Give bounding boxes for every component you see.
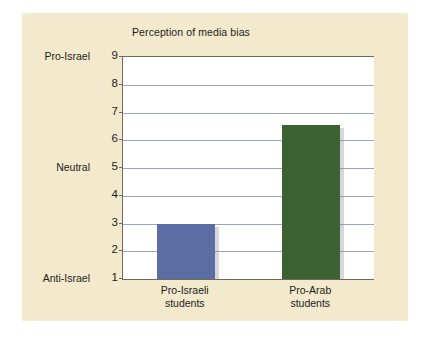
y-anchor-label: Neutral xyxy=(56,161,90,173)
bar xyxy=(282,125,340,279)
chart-title: Perception of media bias xyxy=(132,26,250,38)
chart-figure: Perception of media bias 987654321 Pro-I… xyxy=(22,13,408,321)
x-category-line: students xyxy=(165,297,205,309)
x-category-line: students xyxy=(290,297,330,309)
y-tick-label: 8 xyxy=(96,78,118,90)
y-tick-label: 7 xyxy=(96,106,118,118)
y-axis-tick-labels: 987654321 xyxy=(94,56,118,278)
plot-area xyxy=(122,56,374,280)
gridline xyxy=(123,113,374,114)
y-tick-label: 3 xyxy=(96,217,118,229)
y-anchor-label: Pro-Israel xyxy=(44,50,90,62)
y-tick-label: 1 xyxy=(96,272,118,284)
y-tick-label: 5 xyxy=(96,161,118,173)
gridline xyxy=(123,85,374,86)
x-category-line: Pro-Arab xyxy=(289,284,331,296)
y-tick-label: 6 xyxy=(96,133,118,145)
y-tick-label: 9 xyxy=(96,50,118,62)
x-category-label: Pro-Arabstudents xyxy=(250,284,370,310)
y-anchor-label: Anti-Israel xyxy=(43,272,90,284)
bar xyxy=(157,224,215,280)
x-category-line: Pro-Israeli xyxy=(161,284,209,296)
y-tick-label: 2 xyxy=(96,244,118,256)
x-category-label: Pro-Israelistudents xyxy=(125,284,245,310)
y-tick-label: 4 xyxy=(96,189,118,201)
